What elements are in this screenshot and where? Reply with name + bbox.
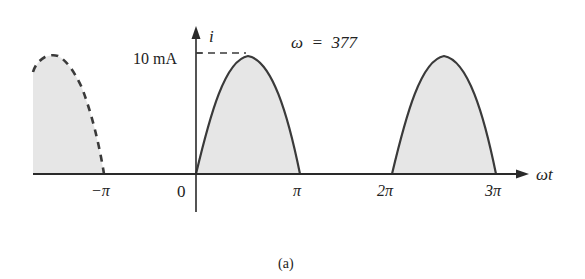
y-axis-arrow-icon	[192, 26, 201, 39]
x-axis-arrow-icon	[516, 170, 529, 179]
peak-label: 10 mA	[133, 50, 177, 67]
tick-label-neg-pi: −π	[91, 182, 111, 199]
waveform-diagram: i 10 mA ω = 377 ωt −π 0 π 2π 3π (a)	[0, 0, 585, 279]
tick-label-2pi: 2π	[377, 182, 394, 199]
previous-pulse-fill	[33, 55, 104, 174]
tick-label-zero: 0	[177, 182, 186, 201]
figure-caption: (a)	[278, 256, 294, 272]
tick-label-3pi: 3π	[484, 182, 502, 199]
y-axis-label: i	[209, 27, 214, 46]
tick-label-pi: π	[293, 182, 302, 199]
x-axis-label: ωt	[536, 165, 554, 184]
omega-label: ω = 377	[291, 33, 358, 52]
